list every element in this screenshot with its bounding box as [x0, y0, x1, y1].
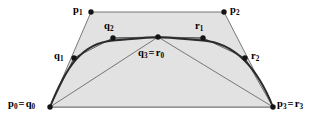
point-p0-q0 — [47, 104, 52, 109]
bezier-subdivision-figure: p1 p2 q2 r1 q1 r2 q3=r0 p0=q0 p3=r3 — [0, 0, 315, 121]
point-q3-r0 — [155, 34, 160, 39]
point-p2 — [221, 9, 226, 14]
label-r2: r2 — [251, 51, 259, 62]
label-p3-sub: 3 — [283, 103, 287, 111]
label-r0-sub: 0 — [160, 52, 164, 60]
label-p0q0-equals: = — [18, 98, 26, 109]
label-q2: q2 — [104, 21, 114, 32]
point-q2 — [110, 35, 115, 40]
label-p2: p2 — [230, 5, 240, 16]
point-r1 — [200, 35, 205, 40]
point-q1 — [71, 55, 76, 60]
label-p1-sub: 1 — [79, 9, 83, 17]
label-q3-sub: 3 — [144, 52, 148, 60]
label-r1-sub: 1 — [200, 25, 204, 33]
label-q3-equals-r0: q3=r0 — [138, 48, 164, 59]
point-r2 — [242, 55, 247, 60]
point-p1 — [88, 9, 93, 14]
label-q2-sub: 2 — [110, 25, 114, 33]
label-p2-sub: 2 — [236, 9, 240, 17]
point-p3-r3 — [270, 104, 275, 109]
label-p3-equals-r3: p3=r3 — [277, 99, 303, 110]
label-q1: q1 — [54, 51, 64, 62]
label-p1: p1 — [73, 5, 83, 16]
label-r3-sub: 3 — [299, 103, 303, 111]
label-q3r0-equals: = — [148, 47, 156, 58]
label-p3r3-equals: = — [287, 98, 295, 109]
label-p0-equals-q0: p0=q0 — [8, 99, 35, 110]
label-q1-sub: 1 — [60, 55, 64, 63]
label-r2-sub: 2 — [256, 55, 260, 63]
label-p0-sub: 0 — [14, 103, 18, 111]
diagram-canvas — [0, 0, 315, 121]
label-q0-base: q — [26, 98, 32, 109]
label-r1: r1 — [195, 21, 203, 32]
label-q0-sub: 0 — [32, 103, 36, 111]
